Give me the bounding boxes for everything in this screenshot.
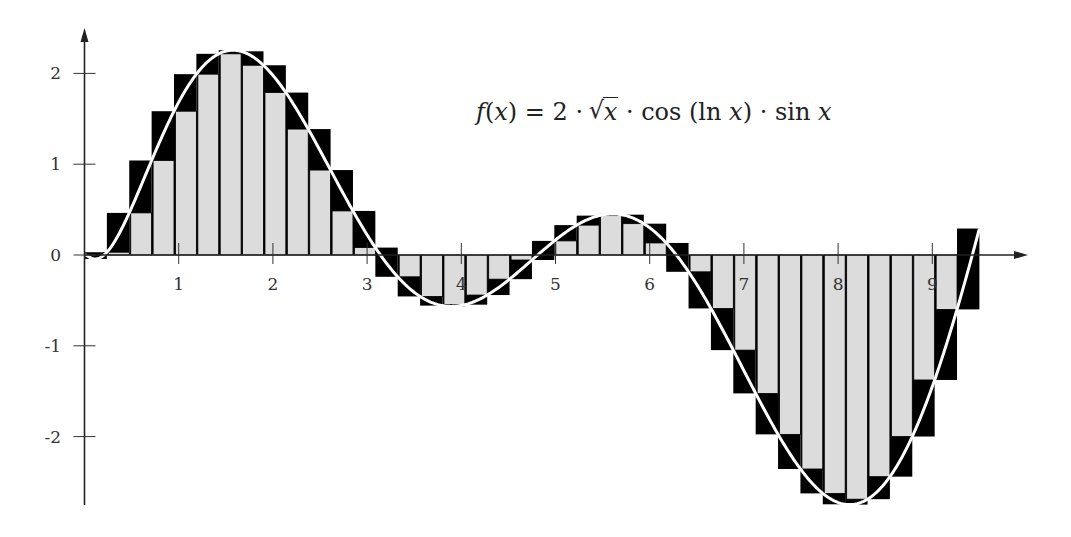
x-tick-label: 4: [456, 274, 467, 294]
lower-bar: [422, 255, 443, 296]
lower-bar: [757, 255, 778, 393]
lower-bar: [332, 211, 353, 255]
lower-bar: [891, 255, 912, 437]
lower-bar: [601, 216, 622, 255]
lower-bar: [735, 255, 756, 350]
x-tick-label: 5: [550, 274, 561, 294]
lower-bar: [712, 255, 733, 308]
lower-bar: [690, 255, 711, 272]
x-tick-label: 8: [833, 274, 844, 294]
lower-bar: [623, 224, 644, 255]
y-tick-label: -1: [44, 336, 61, 356]
lower-bar: [243, 65, 264, 255]
y-axis-arrow-icon: [81, 28, 89, 42]
lower-bar: [310, 170, 331, 255]
x-axis-arrow-icon: [1014, 251, 1028, 259]
lower-bar: [153, 160, 174, 255]
x-tick-label: 1: [173, 274, 184, 294]
y-tick-label: 0: [50, 245, 61, 265]
lower-bar: [175, 111, 196, 255]
lower-bar: [556, 241, 577, 255]
lower-bar: [645, 243, 666, 255]
lower-bar: [489, 255, 510, 279]
lower-bar: [198, 74, 219, 255]
lower-bar: [131, 213, 152, 255]
x-tick-label: 9: [927, 274, 938, 294]
lower-bar: [265, 93, 286, 255]
lower-bar: [869, 255, 890, 477]
x-tick-label: 2: [267, 274, 278, 294]
lower-bar: [936, 255, 957, 309]
y-tick-label: 1: [50, 154, 61, 174]
lower-bar: [847, 255, 868, 499]
function-formula: f(x) = 2 · x · cos (ln x) · sin x: [476, 98, 832, 126]
lower-bar: [780, 255, 801, 434]
x-tick-label: 6: [644, 274, 655, 294]
lower-bar: [220, 54, 241, 255]
lower-bar: [287, 129, 308, 255]
riemann-sum-chart: 123456789210-1-2: [0, 0, 1071, 537]
y-tick-label: -2: [44, 427, 61, 447]
lower-bar: [354, 248, 375, 255]
lower-bar: [802, 255, 823, 469]
lower-bar: [578, 225, 599, 255]
lower-bar: [399, 255, 420, 277]
lower-bar: [466, 255, 487, 295]
x-tick-label: 3: [362, 274, 373, 294]
y-tick-label: 2: [50, 63, 61, 83]
x-tick-label: 7: [738, 274, 749, 294]
